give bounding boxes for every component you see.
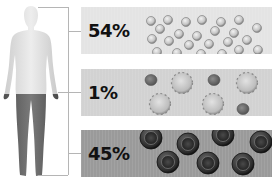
human-body-icon — [0, 0, 62, 183]
red-blood-cells-icon — [81, 130, 272, 177]
bracket-top-line — [38, 7, 68, 8]
connector-plasma — [68, 31, 81, 32]
plasma-panel: 54% — [81, 7, 272, 54]
white-blood-cells-icon — [81, 69, 272, 116]
connector-wbc — [58, 92, 81, 93]
rbc-panel: 45% — [81, 130, 272, 177]
wbc-panel: 1% — [81, 69, 272, 116]
bracket-vertical-line — [68, 7, 69, 175]
bracket-bottom-line — [38, 175, 68, 176]
plasma-droplets-icon — [81, 7, 272, 54]
connector-rbc — [68, 153, 81, 154]
